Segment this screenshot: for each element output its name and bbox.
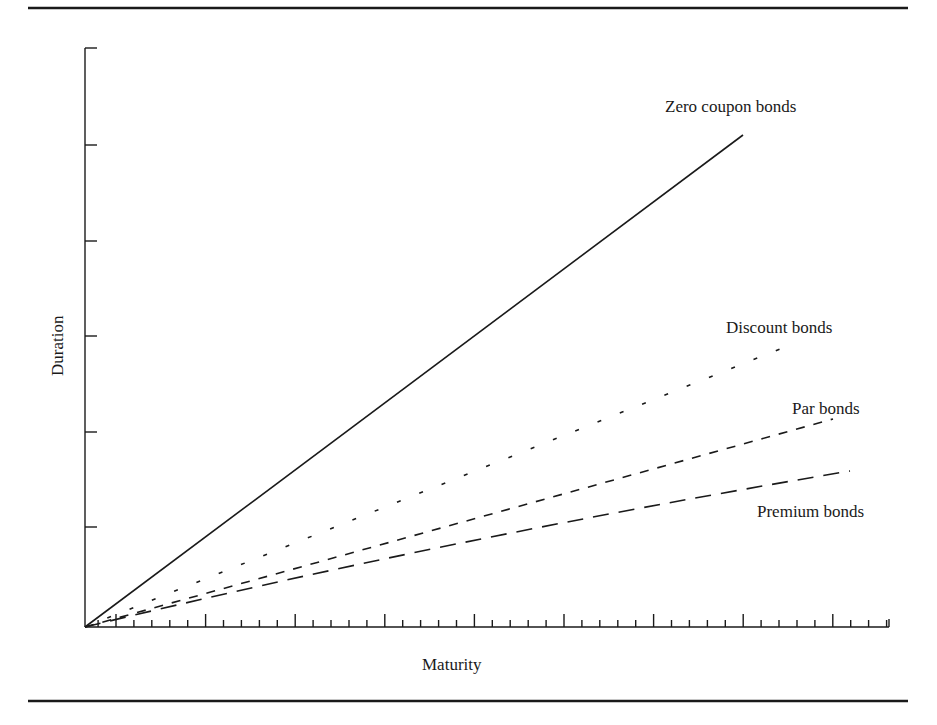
x-axis [85, 614, 889, 627]
label-premium-bonds: Premium bonds [757, 502, 864, 521]
series-premium-bonds [85, 471, 850, 627]
label-par-bonds: Par bonds [792, 399, 860, 418]
series-par-bonds [85, 419, 833, 627]
chart-canvas: Zero coupon bonds Discount bonds Par bon… [0, 0, 937, 725]
label-zero-coupon-bonds: Zero coupon bonds [665, 97, 796, 116]
series-discount-bonds [85, 345, 790, 627]
y-axis-label: Duration [48, 315, 67, 376]
x-axis-label: Maturity [422, 655, 482, 674]
label-discount-bonds: Discount bonds [726, 318, 832, 337]
series-zero-coupon-bonds [85, 135, 743, 627]
y-axis [85, 48, 97, 627]
